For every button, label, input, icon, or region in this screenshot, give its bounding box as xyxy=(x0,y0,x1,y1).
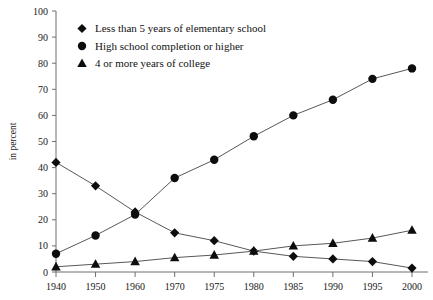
y-tick-label-80: 80 xyxy=(38,58,48,69)
data-point-1995-circle xyxy=(368,75,376,83)
y-tick-label-0: 0 xyxy=(43,267,48,278)
y-tick-label-30: 30 xyxy=(38,188,48,199)
series-2-circle xyxy=(52,64,416,258)
legend-marker-diamond xyxy=(77,24,86,33)
data-point-1940-circle xyxy=(52,250,60,258)
data-point-1995-diamond xyxy=(368,257,377,266)
legend-label-1: Less than 5 years of elementary school xyxy=(95,22,266,34)
y-axis-title-label: in percent xyxy=(8,122,18,160)
legend-item-2: High school completion or higher xyxy=(78,40,244,52)
legend-label-2: High school completion or higher xyxy=(95,40,244,52)
data-point-1985-diamond xyxy=(289,252,298,261)
data-point-1940-diamond xyxy=(51,158,60,167)
y-axis: 0102030405060708090100 xyxy=(33,6,56,278)
y-tick-label-60: 60 xyxy=(38,110,48,121)
y-tick-label-100: 100 xyxy=(33,6,48,17)
data-point-1950-circle xyxy=(91,231,99,239)
y-tick-label-40: 40 xyxy=(38,162,48,173)
series-3-triangle xyxy=(51,225,417,270)
y-tick-label-20: 20 xyxy=(38,214,48,225)
y-axis-title: in percent xyxy=(8,122,18,160)
series-line-3 xyxy=(56,230,412,267)
legend-marker-circle xyxy=(78,42,86,50)
data-point-1960-circle xyxy=(131,210,139,218)
y-tick-label-90: 90 xyxy=(38,32,48,43)
x-tick-label-2000: 2000 xyxy=(402,281,422,292)
series-line-1 xyxy=(56,162,412,268)
x-tick-label-1940: 1940 xyxy=(46,281,66,292)
legend-label-3: 4 or more years of college xyxy=(95,57,210,69)
data-point-1975-circle xyxy=(210,156,218,164)
y-tick-label-10: 10 xyxy=(38,240,48,251)
x-tick-label-1990: 1990 xyxy=(323,281,343,292)
data-point-2000-diamond xyxy=(407,263,416,272)
y-tick-label-50: 50 xyxy=(38,136,48,147)
data-point-1990-circle xyxy=(329,96,337,104)
data-point-1980-circle xyxy=(250,132,258,140)
data-point-1970-diamond xyxy=(170,228,179,237)
x-tick-label-1970: 1970 xyxy=(165,281,185,292)
x-tick-label-1985: 1985 xyxy=(283,281,303,292)
x-tick-label-1975: 1975 xyxy=(204,281,224,292)
chart-legend: Less than 5 years of elementary schoolHi… xyxy=(77,22,266,69)
x-tick-label-1995: 1995 xyxy=(362,281,382,292)
data-point-1975-diamond xyxy=(210,236,219,245)
legend-marker-triangle xyxy=(77,59,87,68)
data-point-2000-triangle xyxy=(407,225,417,234)
legend-item-1: Less than 5 years of elementary school xyxy=(77,22,266,34)
data-point-1990-diamond xyxy=(328,254,337,263)
data-point-1970-circle xyxy=(170,174,178,182)
series-1-diamond xyxy=(51,158,416,273)
data-point-1985-circle xyxy=(289,111,297,119)
data-point-2000-circle xyxy=(408,64,416,72)
series-line-2 xyxy=(56,68,412,253)
education-attainment-line-chart: 0102030405060708090100 19401950196019701… xyxy=(0,0,433,300)
x-tick-label-1960: 1960 xyxy=(125,281,145,292)
legend-item-3: 4 or more years of college xyxy=(77,57,210,69)
x-tick-label-1950: 1950 xyxy=(86,281,106,292)
x-axis: 1940195019601970197519801985199019952000 xyxy=(46,272,428,292)
y-tick-label-70: 70 xyxy=(38,84,48,95)
data-point-1950-diamond xyxy=(91,181,100,190)
x-tick-label-1980: 1980 xyxy=(244,281,264,292)
chart-container: 0102030405060708090100 19401950196019701… xyxy=(0,0,433,300)
series-layer xyxy=(51,64,417,272)
